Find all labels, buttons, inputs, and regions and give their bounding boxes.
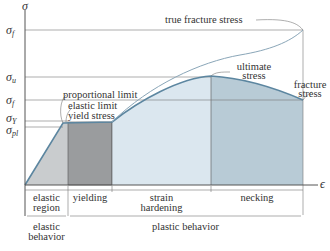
- yield-stress-label: yield stress: [68, 111, 115, 121]
- ultimate-stress-label-2: stress: [232, 71, 276, 81]
- stress-strain-diagram: [0, 0, 330, 251]
- true-fracture-stress-symbol: σf: [6, 24, 14, 40]
- proportional-limit-symbol: σpl: [6, 124, 18, 140]
- behavior-elastic: elasticbehavior: [25, 222, 68, 242]
- fracture-stress-label-2: stress: [290, 89, 330, 99]
- region-yielding: yielding: [68, 193, 112, 203]
- proportional-limit-label: proportional limit: [63, 90, 137, 100]
- x-axis-symbol: ϵ: [320, 178, 325, 190]
- ultimate-stress-symbol: σu: [6, 71, 16, 87]
- true-fracture-stress-label: true fracture stress: [165, 15, 243, 25]
- y-axis-symbol: σ: [22, 0, 28, 12]
- fracture-stress-symbol: σf: [6, 94, 14, 110]
- region-elastic: elasticregion: [25, 193, 68, 213]
- yielding-region-fill: [68, 122, 112, 185]
- region-necking: necking: [211, 193, 303, 203]
- behavior-plastic: plastic behavior: [68, 222, 303, 232]
- region-strain-hardening: strainhardening: [112, 193, 211, 213]
